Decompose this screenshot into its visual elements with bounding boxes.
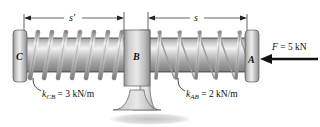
leader-line-cb bbox=[33, 78, 41, 91]
label-point-a: A bbox=[247, 54, 255, 65]
label-point-b: B bbox=[132, 51, 140, 62]
force-arrow-head bbox=[260, 54, 272, 64]
arrowhead-right-start bbox=[148, 16, 155, 21]
arrowhead-right-end bbox=[240, 16, 247, 21]
force-label: F = 5 kN bbox=[271, 42, 307, 52]
spring-system-diagram: s′ s C B A F = 5 kN kCB = 3 k bbox=[0, 0, 320, 127]
arrowhead-left-start bbox=[24, 16, 31, 21]
leader-spring-cb bbox=[33, 78, 41, 91]
label-point-c: C bbox=[16, 51, 23, 62]
label-spring-cb: kCB = 3 kN/m bbox=[42, 89, 95, 101]
dimension-label-right: s bbox=[194, 12, 198, 23]
pedestal-shadow bbox=[108, 113, 192, 125]
dimension-label-left: s′ bbox=[69, 12, 76, 23]
leader-spring-ab bbox=[178, 78, 185, 91]
label-spring-ab: kAB = 2 kN/m bbox=[186, 89, 238, 101]
force-arrow bbox=[260, 54, 318, 64]
arrowhead-left-end bbox=[117, 16, 124, 21]
leader-line-ab bbox=[178, 78, 185, 91]
